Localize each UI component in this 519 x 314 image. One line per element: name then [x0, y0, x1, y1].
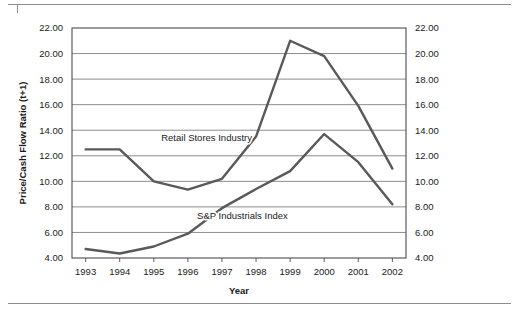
x-axis-tick-label: 1995 — [143, 266, 164, 277]
y-axis-left-tick-label: 6.00 — [45, 227, 64, 238]
x-axis-tick-label: 1998 — [245, 266, 266, 277]
y-axis-right-tick-label: 6.00 — [415, 227, 434, 238]
y-axis-left-tick-label: 22.00 — [39, 22, 63, 33]
y-axis-right-tick-label: 10.00 — [415, 176, 439, 187]
y-axis-left-tick-labels: 4.006.008.0010.0012.0014.0016.0018.0020.… — [39, 22, 63, 263]
y-axis-right-tick-label: 18.00 — [415, 74, 439, 85]
x-axis-tick-label: 1996 — [177, 266, 198, 277]
y-axis-left-tick-label: 14.00 — [39, 125, 63, 136]
figure-container: 4.006.008.0010.0012.0014.0016.0018.0020.… — [0, 0, 519, 314]
y-axis-right-tick-label: 16.00 — [415, 99, 439, 110]
x-axis-tick-label: 1993 — [75, 266, 96, 277]
y-axis-title: Price/Cash Flow Ratio (t+1) — [17, 82, 28, 205]
x-axis-tick-labels: 1993199419951996199719981999200020012002 — [75, 266, 403, 277]
y-axis-left-tick-label: 10.00 — [39, 176, 63, 187]
x-axis-tick-label: 2001 — [348, 266, 369, 277]
y-axis-right-tick-label: 20.00 — [415, 48, 439, 59]
price-cash-flow-ratio-line-chart: 4.006.008.0010.0012.0014.0016.0018.0020.… — [0, 0, 519, 314]
y-axis-right-tick-label: 12.00 — [415, 150, 439, 161]
y-axis-right-tick-labels: 4.006.008.0010.0012.0014.0016.0018.0020.… — [415, 22, 439, 263]
y-axis-left-tick-label: 20.00 — [39, 48, 63, 59]
y-axis-left-tick-label: 4.00 — [45, 252, 64, 263]
y-axis-right-tick-label: 8.00 — [415, 201, 434, 212]
y-axis-left-tick-label: 12.00 — [39, 150, 63, 161]
series-inline-label: Retail Stores Industry — [161, 132, 252, 143]
x-axis-title: Year — [229, 285, 249, 296]
bottom-horizontal-rule — [8, 303, 511, 304]
y-axis-left-tick-label: 16.00 — [39, 99, 63, 110]
y-axis-left-tick-label: 8.00 — [45, 201, 64, 212]
y-axis-right-tick-label: 14.00 — [415, 125, 439, 136]
series-inline-label: S&P Industrials Index — [197, 210, 288, 221]
x-axis-tick-label: 1999 — [280, 266, 301, 277]
y-axis-left-tick-label: 18.00 — [39, 74, 63, 85]
y-axis-right-tick-label: 22.00 — [415, 22, 439, 33]
y-axis-right-tick-label: 4.00 — [415, 252, 434, 263]
x-axis-tick-label: 2002 — [382, 266, 403, 277]
x-axis-tick-label: 1997 — [211, 266, 232, 277]
x-axis-tick-marks — [86, 258, 393, 262]
x-axis-tick-label: 2000 — [314, 266, 335, 277]
x-axis-tick-label: 1994 — [109, 266, 130, 277]
